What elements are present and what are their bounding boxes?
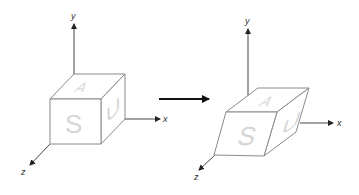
sheared-cube-figure: S A U y x z bbox=[193, 16, 342, 182]
front-face-letter: S bbox=[65, 109, 82, 139]
left-z-label: z bbox=[20, 167, 26, 177]
cube: S A U bbox=[50, 74, 125, 144]
right-z-label: z bbox=[193, 172, 199, 182]
right-y-label: y bbox=[244, 16, 250, 26]
right-z-axis bbox=[199, 155, 215, 170]
left-z-axis bbox=[30, 144, 50, 165]
sheared-cube: S A U bbox=[214, 88, 309, 156]
left-y-label: y bbox=[70, 11, 76, 21]
left-x-label: x bbox=[162, 114, 168, 124]
original-cube-figure: S A U y x z bbox=[20, 11, 168, 177]
right-x-label: x bbox=[336, 118, 342, 128]
shear-transformation-diagram: S A U y x z bbox=[0, 0, 359, 195]
